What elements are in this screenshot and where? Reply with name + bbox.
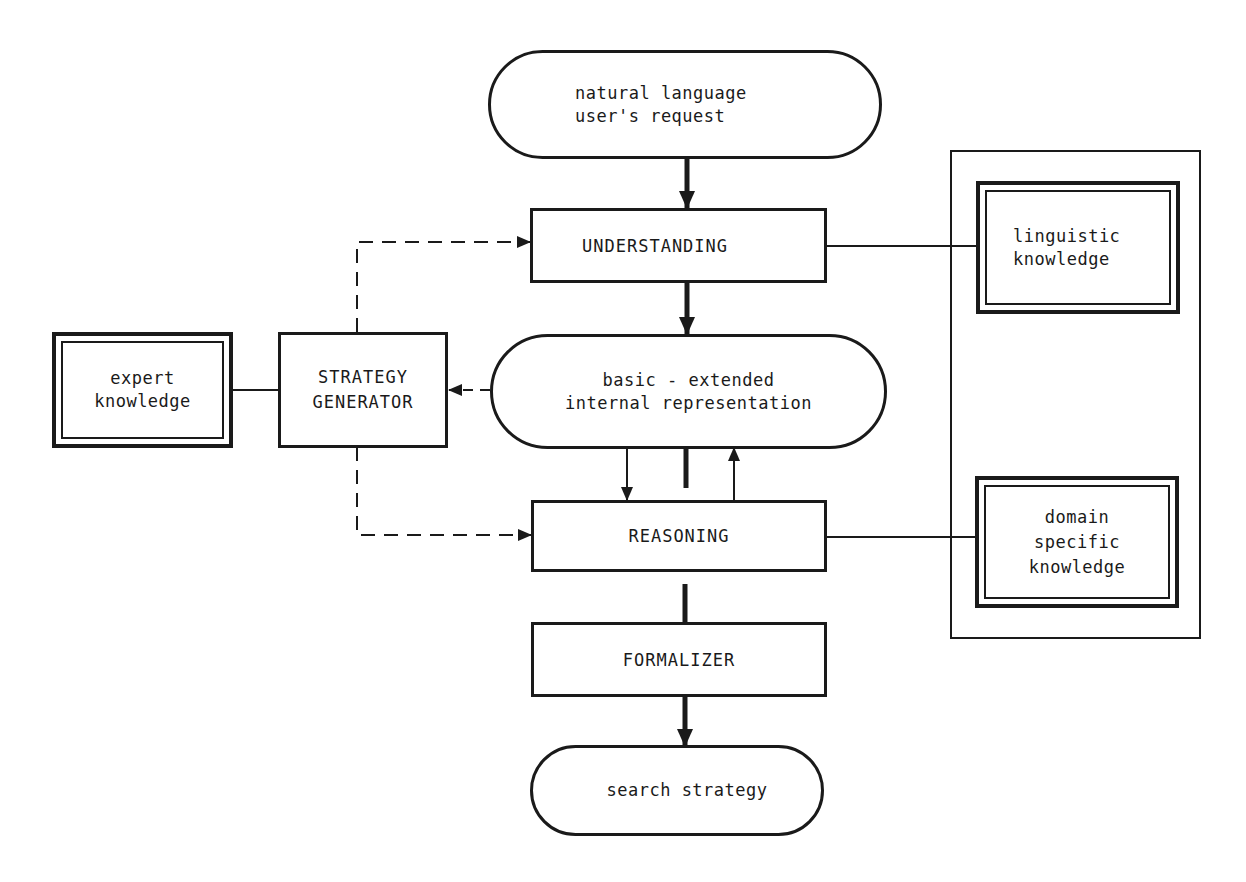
node-search-strategy-label: search strategy xyxy=(586,779,767,802)
node-formalizer-label: FORMALIZER xyxy=(623,650,735,670)
flowchart-canvas: natural language user's request UNDERSTA… xyxy=(0,0,1246,882)
node-reasoning-label: REASONING xyxy=(628,526,729,546)
edge-strategy-understanding xyxy=(357,242,530,332)
node-linguistic-knowledge-inner: linguistic knowledge xyxy=(985,190,1171,305)
node-user-request[interactable]: natural language user's request xyxy=(488,50,882,159)
node-domain-specific-knowledge-label: domain specific knowledge xyxy=(1029,505,1126,580)
node-understanding[interactable]: UNDERSTANDING xyxy=(530,208,827,283)
node-strategy-generator[interactable]: STRATEGY GENERATOR xyxy=(278,332,448,448)
node-reasoning[interactable]: REASONING xyxy=(531,500,827,572)
node-internal-representation[interactable]: basic - extended internal representation xyxy=(490,334,887,449)
node-linguistic-knowledge[interactable]: linguistic knowledge xyxy=(976,181,1180,314)
node-search-strategy[interactable]: search strategy xyxy=(530,745,824,836)
node-understanding-label: UNDERSTANDING xyxy=(582,236,728,256)
node-expert-knowledge-inner: expert knowledge xyxy=(61,341,224,439)
node-linguistic-knowledge-label: linguistic knowledge xyxy=(1013,225,1120,271)
node-expert-knowledge[interactable]: expert knowledge xyxy=(52,332,233,448)
node-expert-knowledge-label: expert knowledge xyxy=(94,367,191,413)
node-internal-representation-label: basic - extended internal representation xyxy=(565,369,812,415)
edge-strategy-reasoning xyxy=(357,447,531,535)
node-strategy-generator-label: STRATEGY GENERATOR xyxy=(312,365,413,415)
node-domain-specific-knowledge[interactable]: domain specific knowledge xyxy=(975,476,1179,608)
node-domain-specific-knowledge-inner: domain specific knowledge xyxy=(984,485,1170,599)
node-formalizer[interactable]: FORMALIZER xyxy=(531,622,827,697)
node-user-request-label: natural language user's request xyxy=(575,82,747,128)
